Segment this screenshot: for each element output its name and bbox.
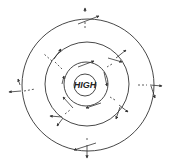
high-pressure-diagram: HIGH <box>0 0 183 166</box>
center-label: HIGH <box>74 80 97 90</box>
